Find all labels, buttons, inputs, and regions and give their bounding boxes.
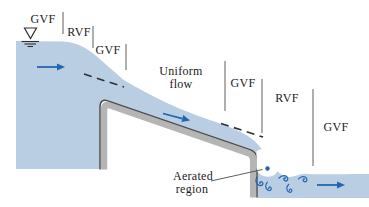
- spillway-flow-diagram: GVF RVF GVF Uniform flow GVF RVF GVF Aer…: [0, 0, 369, 207]
- label-rvf-1: RVF: [67, 25, 90, 39]
- label-gvf-1: GVF: [31, 12, 56, 26]
- label-aerated-2: region: [176, 182, 208, 196]
- air-bubble-dot-icon: [265, 166, 269, 170]
- diagram-canvas: GVF RVF GVF Uniform flow GVF RVF GVF Aer…: [0, 0, 369, 207]
- label-uniform-flow-2: flow: [169, 77, 192, 91]
- label-gvf-2: GVF: [96, 43, 121, 57]
- aerated-region-pocket: [257, 149, 279, 177]
- label-uniform-flow-1: Uniform: [159, 64, 203, 78]
- label-gvf-3: GVF: [231, 76, 256, 90]
- label-gvf-4: GVF: [324, 120, 349, 134]
- label-aerated-1: Aerated: [173, 169, 213, 183]
- label-rvf-2: RVF: [275, 91, 298, 105]
